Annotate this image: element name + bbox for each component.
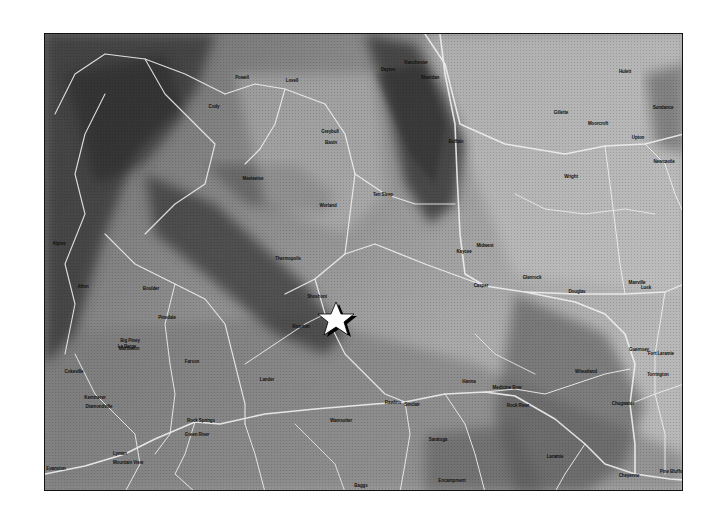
town-label: Big Piney bbox=[120, 338, 140, 343]
town-label: Pine Bluffs bbox=[660, 469, 682, 474]
town-label: Kaycee bbox=[456, 249, 471, 254]
town-label: Manville bbox=[629, 280, 646, 285]
town-label: Medicine Bow bbox=[493, 385, 522, 390]
town-label: Sinclair bbox=[404, 402, 419, 407]
town-label: Alpine bbox=[52, 241, 65, 246]
town-label: Basin bbox=[325, 140, 337, 145]
relief-map bbox=[45, 34, 683, 491]
town-label: Sheridan bbox=[421, 75, 439, 80]
town-label: Kemmerer bbox=[84, 395, 105, 400]
town-label: Douglas bbox=[568, 289, 585, 294]
town-label: Wheatland bbox=[575, 369, 597, 374]
town-label: Green River bbox=[185, 432, 209, 437]
town-label: Saratoga bbox=[429, 437, 447, 442]
town-label: Chugwater bbox=[612, 401, 634, 406]
town-label: Rock River bbox=[507, 403, 530, 408]
town-label: Farson bbox=[185, 359, 199, 364]
town-label: Guernsey bbox=[629, 347, 649, 352]
town-label: Upton bbox=[632, 135, 645, 140]
town-label: Encampment bbox=[438, 478, 465, 483]
town-label: Ranchester bbox=[404, 60, 428, 65]
town-label: Rock Springs bbox=[187, 418, 215, 423]
town-label: Boulder bbox=[143, 286, 159, 291]
town-label: Diamondville bbox=[86, 404, 113, 409]
town-label: Pinedale bbox=[158, 315, 176, 320]
town-label: Buffalo bbox=[449, 139, 464, 144]
town-label: Lovell bbox=[286, 78, 298, 83]
town-label: Evanston bbox=[46, 466, 65, 471]
town-label: Cokeville bbox=[65, 369, 84, 374]
town-label: Baggs bbox=[354, 483, 367, 488]
star-marker-icon[interactable] bbox=[317, 300, 357, 340]
town-label: Lander bbox=[260, 377, 274, 382]
town-label: Mountain View bbox=[113, 460, 143, 465]
town-label: Dayton bbox=[381, 67, 396, 72]
town-label: Thermopolis bbox=[275, 256, 301, 261]
town-label: Hulett bbox=[619, 69, 631, 74]
town-label: Afton bbox=[77, 284, 88, 289]
map-frame[interactable]: PowellLovellCodyGreybullBasinMeeteetseWo… bbox=[44, 33, 683, 491]
town-label: Newcastle bbox=[653, 159, 674, 164]
town-label: Riverton bbox=[292, 324, 309, 329]
town-label: Sundance bbox=[653, 105, 674, 110]
town-label: La Barge bbox=[118, 344, 136, 349]
town-label: Greybull bbox=[321, 129, 338, 134]
town-label: Fort Laramie bbox=[648, 351, 674, 356]
town-label: Casper bbox=[474, 283, 489, 288]
town-label: Powell bbox=[235, 75, 249, 80]
town-label: Rawlins bbox=[385, 400, 401, 405]
town-label: Moorcroft bbox=[588, 121, 608, 126]
town-label: Shoshoni bbox=[307, 294, 327, 299]
town-label: Torrington bbox=[647, 372, 668, 377]
town-label: Lyman bbox=[113, 451, 127, 456]
town-label: Midwest bbox=[476, 243, 493, 248]
town-label: Wamsutter bbox=[330, 418, 352, 423]
town-label: Glenrock bbox=[523, 275, 542, 280]
town-label: Laramie bbox=[547, 454, 564, 459]
town-label: Worland bbox=[319, 203, 336, 208]
town-label: Meeteetse bbox=[243, 176, 264, 181]
town-label: Ten Sleep bbox=[373, 192, 393, 197]
town-label: Gillette bbox=[554, 110, 568, 115]
town-label: Cheyenne bbox=[619, 473, 640, 478]
town-label: Wright bbox=[564, 174, 578, 179]
town-label: Cody bbox=[209, 104, 220, 109]
town-label: Lusk bbox=[641, 285, 651, 290]
town-label: Hanna bbox=[462, 379, 475, 384]
